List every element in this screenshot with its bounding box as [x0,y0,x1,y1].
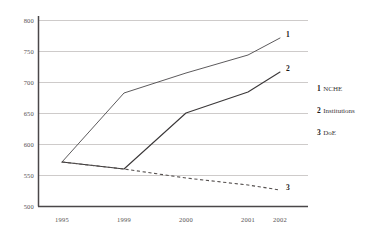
series-end-label-institutions: 2 [286,64,290,73]
x-tick-label-2002: 2002 [265,216,295,223]
y-tick-label-600: 600 [12,141,34,148]
legend-key-nche: 1 [317,84,321,93]
legend-label-nche: NCHE [323,85,342,93]
gridlines [38,21,308,176]
legend-label-doe: DoE [323,129,336,137]
y-tick-label-650: 650 [12,110,34,117]
legend-label-institutions: Institutions [323,107,355,115]
series-end-label-doe: 3 [286,183,290,192]
x-tick-label-2000: 2000 [171,216,201,223]
y-tick-label-750: 750 [12,48,34,55]
series-end-label-nche: 1 [286,30,290,39]
y-tick-label-500: 500 [12,203,34,210]
legend-item-doe: 3DoE [317,128,336,137]
legend-item-institutions: 2Institutions [317,106,355,115]
y-tick-label-800: 800 [12,17,34,24]
legend-item-nche: 1NCHE [317,84,342,93]
x-tick-label-1999: 1999 [109,216,139,223]
series-line-institutions [62,72,280,169]
chart-plot-area [0,0,378,237]
series-line-nche [62,38,280,162]
y-tick-label-550: 550 [12,172,34,179]
legend-key-institutions: 2 [317,106,321,115]
line-chart: 800 750 700 650 600 550 500 1995 1999 20… [0,0,378,237]
y-tick-label-700: 700 [12,79,34,86]
legend-key-doe: 3 [317,128,321,137]
x-tick-label-2001: 2001 [233,216,263,223]
x-tick-label-1995: 1995 [47,216,77,223]
